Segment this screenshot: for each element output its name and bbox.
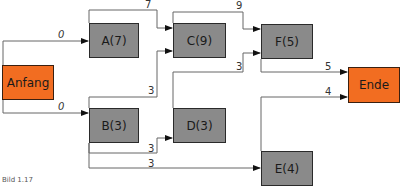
weight-A-C: 7 — [145, 0, 151, 10]
weight-E-end: 4 — [325, 87, 331, 97]
node-a: A(7) — [89, 23, 139, 58]
node-anfang-label: Anfang — [7, 76, 50, 90]
node-c-label: C(9) — [187, 34, 212, 48]
weight-start-B: 0 — [58, 102, 64, 112]
edge-start-B — [3, 100, 88, 113]
node-d-label: D(3) — [186, 119, 212, 133]
node-e: E(4) — [261, 151, 313, 186]
edge-B-C — [89, 51, 172, 108]
weight-B-E: 3 — [148, 159, 154, 169]
edge-E-end — [261, 97, 347, 151]
weight-B-C: 3 — [148, 86, 154, 96]
weight-D-F: 3 — [236, 62, 242, 72]
node-f-label: F(5) — [275, 35, 299, 49]
node-c: C(9) — [173, 23, 226, 58]
figure-caption: Bild 1.17 — [2, 176, 33, 184]
node-d: D(3) — [173, 108, 226, 143]
weight-F-end: 5 — [325, 62, 331, 72]
node-b-label: B(3) — [101, 119, 126, 133]
node-b: B(3) — [89, 108, 139, 143]
weight-B-D: 3 — [148, 144, 154, 154]
edge-B-E — [89, 143, 260, 168]
node-ende-label: Ende — [359, 78, 389, 92]
edge-D-F — [173, 53, 260, 108]
weight-C-F: 9 — [236, 1, 242, 11]
node-a-label: A(7) — [101, 34, 126, 48]
node-anfang: Anfang — [2, 65, 54, 100]
node-e-label: E(4) — [275, 162, 300, 176]
node-ende: Ende — [348, 67, 400, 103]
node-f: F(5) — [261, 24, 313, 59]
weight-start-A: 0 — [58, 30, 64, 40]
edge-start-A — [3, 41, 88, 65]
edge-F-end — [261, 59, 347, 72]
